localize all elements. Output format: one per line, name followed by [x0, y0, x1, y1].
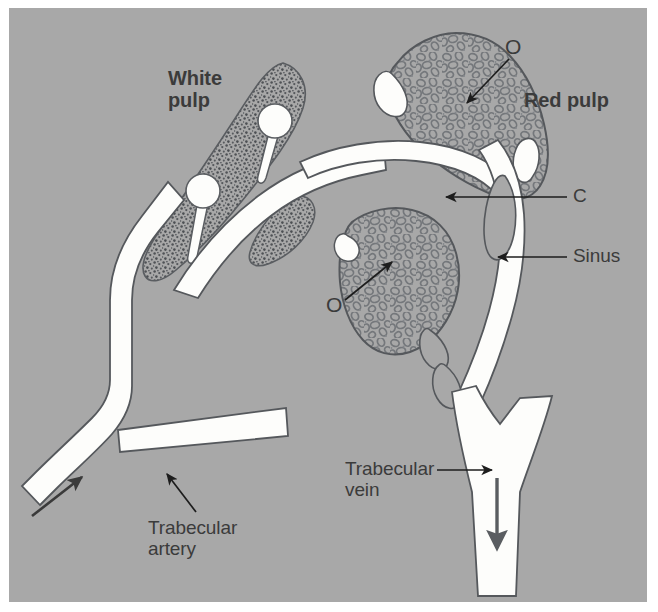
label-c: C: [573, 186, 587, 207]
red-pulp-region-upper: [374, 33, 548, 200]
label-red-pulp: Red pulp: [524, 90, 609, 112]
label-white-pulp: White pulp: [168, 68, 222, 111]
figure-page: White pulp Red pulp O O C Sinus Trabecul…: [0, 0, 658, 612]
label-trabecular-artery: Trabecular artery: [148, 518, 237, 559]
label-trabecular-vein: Trabecular vein: [345, 459, 434, 500]
label-o-upper: O: [505, 36, 521, 59]
label-o-lower: O: [326, 294, 342, 317]
label-sinus: Sinus: [573, 246, 620, 267]
trabecular-vein: [452, 386, 552, 596]
trabecular-artery-leader: [167, 474, 196, 512]
red-pulp-region-lower: [334, 208, 459, 354]
